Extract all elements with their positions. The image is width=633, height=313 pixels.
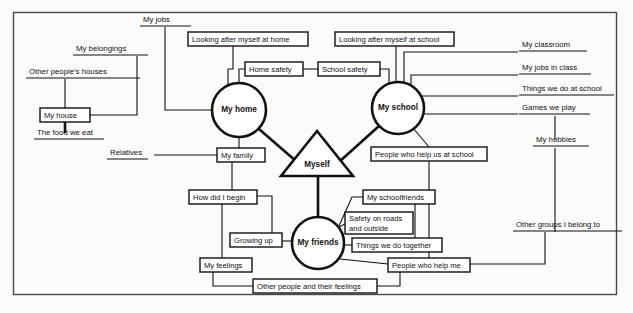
label-things-we-do-at-school-text: Things we do at school [522,84,602,93]
node-safety-on-roads-and-outside[interactable]: Safety on roads and outside [345,212,413,234]
underlined-label-layer: My jobs My belongings My classroom Other… [26,15,622,231]
label-other-groups-i-belong-to-text: Other groups I belong to [516,220,601,229]
node-my-friends[interactable]: My friends [292,217,344,269]
edge-my-friends-to-people-who-help-me [340,259,388,264]
edge-my-school-to-people-help-school [413,128,429,147]
node-myself[interactable]: Myself [281,131,353,176]
node-looking-after-myself-at-home[interactable]: Looking after myself at home [188,32,308,46]
node-how-did-i-begin-label: How did I begin [193,193,245,202]
node-people-who-help-us-at-school[interactable]: People who help us at school [371,147,487,161]
label-other-groups-i-belong-to[interactable]: Other groups I belong to [513,220,622,231]
node-my-feelings-label: My feelings [204,261,243,270]
label-games-we-play[interactable]: Games we play [519,103,590,114]
diagram-page: My jobs My belongings My classroom Other… [0,0,633,313]
node-my-house-label: My house [44,111,77,120]
label-the-food-we-eat[interactable]: The food we eat [34,128,104,139]
node-looking-after-myself-at-school[interactable]: Looking after myself at school [335,32,454,46]
node-growing-up[interactable]: Growing up [230,233,282,247]
edge-my-belongings-to-my-house [90,56,137,115]
node-my-friends-label: My friends [298,238,339,247]
edge-my-school-to-my-jobs-in-class [411,75,518,88]
box-node-layer: Looking after myself at home Home safety… [40,32,487,293]
edge-my-school-to-things-we-do-at-school [418,95,518,96]
label-my-jobs-text: My jobs [143,15,170,24]
node-how-did-i-begin[interactable]: How did I begin [189,190,257,204]
label-games-we-play-text: Games we play [522,103,576,112]
node-looking-after-myself-at-school-label: Looking after myself at school [339,35,440,44]
node-my-feelings[interactable]: My feelings [200,258,252,272]
node-school-safety[interactable]: School safety [318,62,380,76]
edge-other-people-feelings-to-people-help-me [377,272,400,286]
edge-how-did-i-begin-to-growing-up [257,196,272,233]
node-things-we-do-together[interactable]: Things we do together [352,238,442,252]
label-the-food-we-eat-text: The food we eat [37,128,94,137]
label-other-peoples-houses-text: Other people's houses [29,67,107,76]
edge-home-safety-to-my-home [239,69,245,83]
label-my-classroom-text: My classroom [522,40,570,49]
edge-looking-after-home-to-my-home [228,46,233,85]
node-home-safety-label: Home safety [249,65,292,74]
node-my-home[interactable]: My home [212,83,266,137]
node-other-people-and-their-feelings-label: Other people and their feelings [257,282,361,291]
node-other-people-and-their-feelings[interactable]: Other people and their feelings [253,279,377,293]
node-growing-up-label: Growing up [234,236,273,245]
node-safety-on-roads-line1: Safety on roads [349,214,402,223]
label-my-jobs-in-class-text: My jobs in class [522,63,577,72]
edge-my-school-to-my-classroom [404,52,518,86]
label-relatives-text: Relatives [110,148,142,157]
node-safety-on-roads-line2: and outside [349,224,388,233]
label-my-jobs[interactable]: My jobs [140,15,191,26]
node-my-school[interactable]: My school [372,82,424,134]
concept-map-canvas: My jobs My belongings My classroom Other… [0,0,633,313]
node-looking-after-myself-at-home-label: Looking after myself at home [192,35,290,44]
label-my-classroom[interactable]: My classroom [519,40,587,51]
node-my-family-label: My family [221,151,253,160]
label-my-hobbies-text: My hobbies [536,135,576,144]
node-my-house[interactable]: My house [40,108,90,122]
label-my-belongings-text: My belongings [76,44,126,53]
edge-school-safety-to-my-school [380,69,389,83]
node-things-we-do-together-label: Things we do together [356,241,432,250]
label-relatives[interactable]: Relatives [107,148,148,159]
node-people-who-help-us-at-school-label: People who help us at school [375,150,474,159]
label-other-peoples-houses[interactable]: Other people's houses [26,67,140,78]
edge-people-who-help-me-to-other-groups [470,232,545,264]
node-my-schoolfriends[interactable]: My schoolfriends [363,190,435,204]
node-home-safety[interactable]: Home safety [245,62,303,76]
node-my-schoolfriends-label: My schoolfriends [367,193,424,202]
node-people-who-help-me-label: People who help me [392,261,461,270]
node-my-school-label: My school [378,103,418,112]
node-people-who-help-me[interactable]: People who help me [388,258,470,272]
label-things-we-do-at-school[interactable]: Things we do at school [519,84,614,95]
edge-my-feelings-to-other-people-feelings [213,272,253,286]
label-my-hobbies[interactable]: My hobbies [533,135,589,146]
label-my-belongings[interactable]: My belongings [73,44,148,55]
node-my-home-label: My home [221,105,257,114]
node-my-family[interactable]: My family [217,148,265,162]
node-myself-label: Myself [304,160,330,169]
label-my-jobs-in-class[interactable]: My jobs in class [519,63,591,74]
node-school-safety-label: School safety [322,65,368,74]
